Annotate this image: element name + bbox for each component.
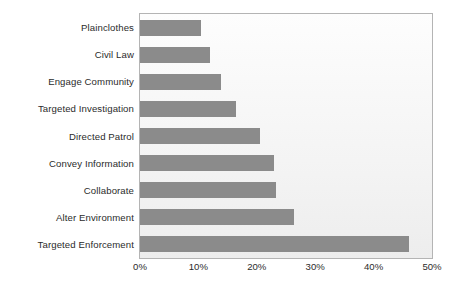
category-label: Collaborate <box>0 185 134 196</box>
x-tick-label: 50% <box>422 261 441 272</box>
bar-chart-figure: PlainclothesCivil LawEngage CommunityTar… <box>0 0 451 300</box>
bar-civil-law <box>140 47 210 63</box>
category-label: Convey Information <box>0 158 134 169</box>
bar-collaborate <box>140 182 276 198</box>
category-label: Engage Community <box>0 76 134 87</box>
x-tick-label: 0% <box>133 261 147 272</box>
bar-targeted-investigation <box>140 101 236 117</box>
plot-area <box>139 13 433 259</box>
bar-plainclothes <box>140 20 201 36</box>
x-tick-label: 20% <box>247 261 266 272</box>
category-axis: PlainclothesCivil LawEngage CommunityTar… <box>0 13 134 259</box>
x-tick-label: 10% <box>189 261 208 272</box>
bar-targeted-enforcement <box>140 236 409 252</box>
category-label: Directed Patrol <box>0 131 134 142</box>
category-label: Targeted Enforcement <box>0 239 134 250</box>
x-tick-label: 40% <box>364 261 383 272</box>
x-tick-label: 30% <box>306 261 325 272</box>
category-label: Civil Law <box>0 49 134 60</box>
category-label: Plainclothes <box>0 22 134 33</box>
bar-directed-patrol <box>140 128 260 144</box>
value-axis: 0%10%20%30%40%50% <box>139 261 433 281</box>
category-label: Targeted Investigation <box>0 103 134 114</box>
category-label: Alter Environment <box>0 212 134 223</box>
plot-background <box>140 14 432 258</box>
bar-alter-environment <box>140 209 294 225</box>
bar-engage-community <box>140 74 221 90</box>
bar-convey-information <box>140 155 274 171</box>
